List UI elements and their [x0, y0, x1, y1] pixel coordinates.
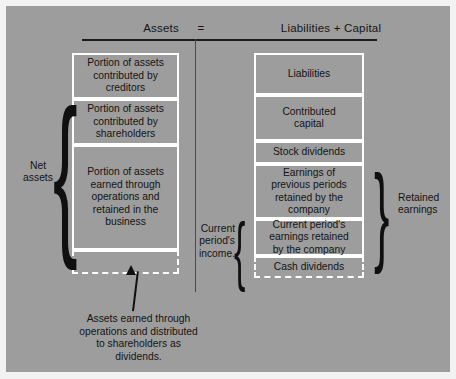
diagram-root: Assets = Liabilities + Capital Portion o… — [0, 0, 456, 379]
box-liabilities: Liabilities — [254, 53, 364, 95]
brace-retained-earnings: } — [374, 158, 389, 268]
box-current-period-earnings-retained: Current period's earnings retained by th… — [254, 219, 364, 256]
callout-text: Assets earned through operations and dis… — [46, 313, 231, 363]
box-stock-dividends: Stock dividends — [254, 141, 364, 164]
label-net-assets: Net assets — [14, 160, 62, 185]
box-contributed-capital: Contributed capital — [254, 95, 364, 141]
label-current-periods-income: Current period's income. — [189, 223, 235, 260]
callout-leader-line — [132, 271, 138, 311]
box-portion-contributed-by-creditors: Portion of assets contributed by credito… — [72, 53, 179, 99]
callout-arrowhead-icon — [126, 265, 136, 275]
box-portion-earned-retained-in-business: Portion of assets earned through operati… — [72, 145, 179, 250]
box-earnings-of-previous-periods: Earnings of previous periods retained by… — [254, 164, 364, 219]
header-horizontal-rule — [82, 39, 377, 41]
header-liabilities-plus-capital: Liabilities + Capital — [241, 22, 421, 34]
box-portion-contributed-by-shareholders: Portion of assets contributed by shareho… — [72, 99, 179, 145]
brace-current-period-income: { — [234, 212, 245, 288]
header-equals-sign: = — [181, 22, 221, 34]
label-retained-earnings: Retained earnings — [398, 192, 450, 217]
box-cash-dividends: Cash dividends — [254, 256, 364, 278]
diagram-canvas: Assets = Liabilities + Capital Portion o… — [6, 6, 450, 372]
